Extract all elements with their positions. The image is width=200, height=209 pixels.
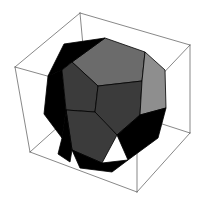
- dodecahedron-in-cube-illustration: [0, 0, 200, 209]
- figure-canvas: [0, 0, 200, 209]
